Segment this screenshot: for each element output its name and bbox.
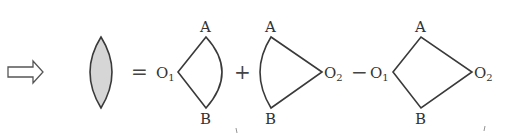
label-a: A: [199, 18, 211, 36]
sector-o2-outline: [260, 37, 322, 108]
sector-o2: A B O2: [260, 18, 343, 128]
minus-operator: −: [351, 60, 368, 84]
label-a: A: [264, 18, 276, 36]
label-b: B: [200, 110, 211, 128]
implies-arrow-icon: [8, 61, 43, 83]
label-o2: O2: [474, 64, 493, 83]
equals-operator: =: [131, 60, 148, 84]
lens-area-equation: = O1 A B + A B O2 − O1 A B O2: [0, 0, 511, 133]
plus-operator: +: [234, 60, 251, 84]
label-o1: O1: [370, 64, 389, 83]
quadrilateral-o1-a-o2-b: O1 A B O2: [370, 18, 493, 128]
label-b: B: [265, 110, 276, 128]
label-b: B: [415, 110, 426, 128]
label-o2-center: O2: [324, 64, 343, 83]
sector-o1-outline: [178, 37, 222, 108]
label-o1-center: O1: [156, 64, 175, 83]
quadrilateral-outline: [393, 37, 472, 108]
bracket-tick-right: [484, 126, 485, 131]
diagram-stage: = O1 A B + A B O2 − O1 A B O2: [0, 0, 511, 133]
sector-o1: O1 A B: [156, 18, 222, 128]
lens-shape: [90, 37, 112, 108]
bracket-tick-left: [236, 128, 237, 133]
label-a: A: [414, 18, 426, 36]
